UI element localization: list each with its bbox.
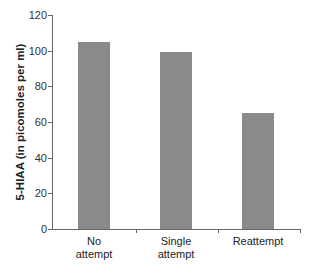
- x-tick: [218, 229, 219, 233]
- y-axis-line: [52, 15, 53, 229]
- x-axis-line: [52, 229, 300, 230]
- y-tick: [48, 122, 52, 123]
- bar: [78, 42, 110, 229]
- y-tick: [48, 158, 52, 159]
- y-tick: [48, 51, 52, 52]
- y-tick-label: 100: [29, 45, 47, 57]
- x-category-label: Reattempt: [218, 235, 298, 261]
- y-tick-label: 60: [35, 116, 47, 128]
- x-category-label-line: attempt: [54, 248, 134, 261]
- x-tick: [300, 229, 301, 233]
- bar: [242, 113, 274, 229]
- x-category-label: Noattempt: [54, 235, 134, 261]
- x-category-label-line: Reattempt: [218, 235, 298, 248]
- y-axis-title: 5-HIAA (in picomoles per ml): [14, 44, 26, 201]
- x-category-label: Singleattempt: [136, 235, 216, 261]
- x-category-label-line: [218, 248, 298, 261]
- y-tick-label: 0: [41, 223, 47, 235]
- y-tick: [48, 193, 52, 194]
- x-category-label-line: Single: [136, 235, 216, 248]
- x-tick: [136, 229, 137, 233]
- x-category-label-line: attempt: [136, 248, 216, 261]
- y-tick: [48, 229, 52, 230]
- y-tick-label: 120: [29, 9, 47, 21]
- bar: [160, 52, 192, 229]
- y-tick-label: 40: [35, 152, 47, 164]
- y-tick: [48, 15, 52, 16]
- y-tick: [48, 86, 52, 87]
- x-category-label-line: No: [54, 235, 134, 248]
- y-tick-label: 80: [35, 80, 47, 92]
- y-tick-label: 20: [35, 187, 47, 199]
